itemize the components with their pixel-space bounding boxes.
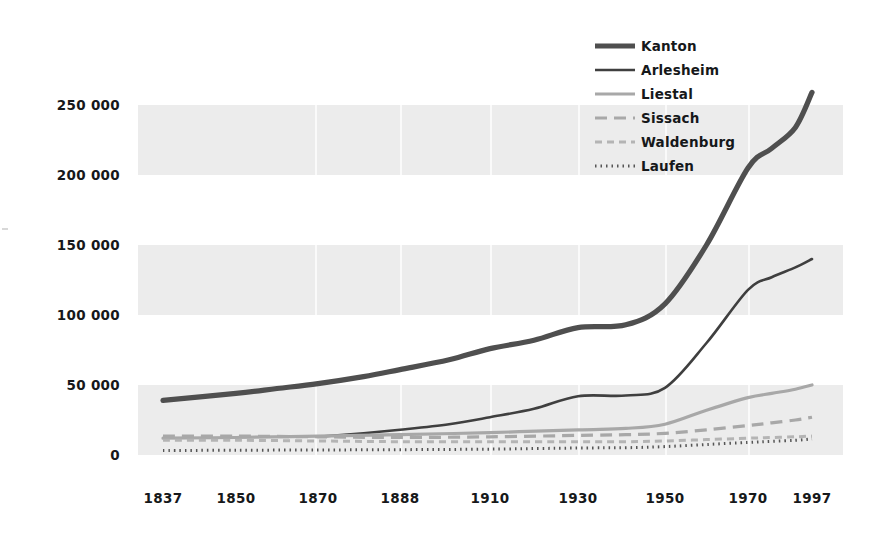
y-axis-labels: 250 000200 000150 000100 00050 0000 — [57, 97, 120, 463]
x-tick-label: 1850 — [217, 490, 256, 506]
x-tick-label: 1837 — [144, 490, 183, 506]
y-tick-label: 150 000 — [57, 237, 120, 253]
y-tick-label: 250 000 — [57, 97, 120, 113]
legend-label-laufen: Laufen — [641, 158, 694, 174]
y-tick-label: 100 000 — [57, 307, 120, 323]
band-seam — [315, 245, 317, 315]
legend-label-kanton: Kanton — [641, 38, 697, 54]
y-tick-label: 50 000 — [67, 377, 120, 393]
band-seam — [748, 385, 750, 455]
band-seam — [315, 105, 317, 175]
band-seam — [400, 105, 402, 175]
x-tick-label: 1888 — [381, 490, 420, 506]
band-seam — [748, 245, 750, 315]
population-line-chart: 250 000200 000150 000100 00050 0000 1837… — [0, 0, 880, 554]
legend-label-liestal: Liestal — [641, 86, 693, 102]
band-seam — [578, 105, 580, 175]
x-tick-label: 1950 — [646, 490, 685, 506]
plot-background-bands — [138, 105, 843, 455]
legend-label-arlesheim: Arlesheim — [641, 62, 719, 78]
x-tick-label: 1910 — [471, 490, 510, 506]
y-tick-label: 200 000 — [57, 167, 120, 183]
x-axis-labels: 183718501870188819101930195019701997 — [144, 490, 832, 506]
legend-label-waldenburg: Waldenburg — [641, 134, 735, 150]
x-tick-label: 1997 — [793, 490, 832, 506]
band-seam — [490, 245, 492, 315]
x-tick-label: 1930 — [559, 490, 598, 506]
y-tick-label: 0 — [110, 447, 120, 463]
x-tick-label: 1970 — [729, 490, 768, 506]
band-seam — [315, 385, 317, 455]
chart-page: 250 000200 000150 000100 00050 0000 1837… — [0, 0, 880, 554]
band-seam — [665, 385, 667, 455]
band-seam — [400, 385, 402, 455]
cropped-axis-title-mark — [2, 228, 8, 230]
band-seam — [400, 245, 402, 315]
band-seam — [490, 385, 492, 455]
band-seam — [490, 105, 492, 175]
band-seam — [578, 245, 580, 315]
legend-label-sissach: Sissach — [641, 110, 700, 126]
x-tick-label: 1870 — [299, 490, 338, 506]
